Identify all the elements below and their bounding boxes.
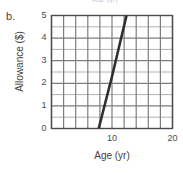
y-axis-tick-label: 5 <box>33 11 47 20</box>
y-axis-tick-label: 2 <box>33 78 47 87</box>
y-axis-tick-label: 4 <box>33 33 47 42</box>
y-axis-tick-label: 3 <box>33 56 47 65</box>
figure-panel: Age (yr) b. Allowance ($) Age (yr) 01234… <box>0 0 182 174</box>
x-axis-tick-label: 10 <box>101 134 123 143</box>
y-axis-tick-label: 1 <box>33 101 47 110</box>
y-axis-tick-label: 0 <box>33 124 47 133</box>
x-axis-tick-label: 20 <box>162 134 183 143</box>
chart-plot <box>0 0 182 174</box>
